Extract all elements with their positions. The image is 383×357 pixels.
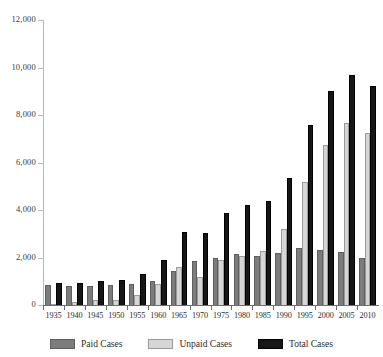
total-cases-bar [245,205,251,305]
y-axis-tick-label: 2,000 [0,252,36,262]
x-axis-tick-label: 1955 [126,311,148,320]
legend-item[interactable]: Unpaid Cases [148,339,232,349]
bar-group [87,20,104,305]
x-axis-tick-label: 1975 [210,311,232,320]
x-axis-tick [252,306,253,310]
x-axis-tick [106,306,107,310]
x-axis-tick [315,306,316,310]
x-axis-tick [294,306,295,310]
total-cases-bar [287,178,293,305]
plot-area [43,20,378,305]
bar-group [45,20,62,305]
bar-group [192,20,209,305]
legend-label: Total Cases [289,339,333,349]
x-axis-tick-label: 1985 [252,311,274,320]
x-axis-tick [336,306,337,310]
bar-group [234,20,251,305]
x-axis-tick [231,306,232,310]
y-axis-tick-label: 8,000 [0,109,36,119]
x-axis-tick-label: 1965 [168,311,190,320]
x-axis-tick-label: 1970 [189,311,211,320]
total-cases-bar [119,280,125,305]
x-axis-tick [64,306,65,310]
bar-group [150,20,167,305]
unpaid-cases-swatch [148,339,173,349]
x-axis-tick [127,306,128,310]
total-cases-bar [56,283,62,305]
total-cases-bar [349,75,355,305]
bar-group [129,20,146,305]
x-axis-tick [211,306,212,310]
total-cases-bar [182,232,188,305]
chart-legend: Paid CasesUnpaid CasesTotal Cases [0,333,383,355]
paid-cases-bar [45,285,51,305]
x-axis-tick-label: 1945 [84,311,106,320]
total-cases-bar [140,274,146,305]
bar-group [108,20,125,305]
total-cases-swatch [258,339,283,349]
bar-group [338,20,355,305]
legend-label: Paid Cases [81,339,122,349]
bar-group [171,20,188,305]
bar-group [317,20,334,305]
x-axis-tick [357,306,358,310]
y-axis-tick-label: 12,000 [0,14,36,24]
x-axis-tick-label: 1960 [147,311,169,320]
bar-group [213,20,230,305]
x-axis-tick-label: 1990 [273,311,295,320]
bar-group [359,20,376,305]
y-axis-tick-label: 4,000 [0,204,36,214]
bar-group [275,20,292,305]
x-axis-tick [169,306,170,310]
bar-group [254,20,271,305]
x-axis-tick-label: 2005 [336,311,358,320]
x-axis-tick-label: 1935 [42,311,64,320]
bar-group [296,20,313,305]
total-cases-bar [370,86,376,305]
x-axis-tick-label: 1950 [105,311,127,320]
x-axis-tick-label: 1940 [63,311,85,320]
paid-cases-swatch [50,339,75,349]
total-cases-bar [98,281,104,305]
total-cases-bar [77,283,83,305]
x-axis-tick [148,306,149,310]
x-axis-tick [43,306,44,310]
total-cases-bar [161,260,167,305]
total-cases-bar [328,91,334,305]
y-axis-tick-label: 10,000 [0,62,36,72]
bar-chart: 02,0004,0006,0008,00010,00012,000 193519… [0,0,383,357]
total-cases-bar [308,125,314,305]
x-axis-tick [190,306,191,310]
legend-item[interactable]: Paid Cases [50,339,122,349]
x-axis-tick-label: 1995 [294,311,316,320]
total-cases-bar [224,213,230,305]
total-cases-bar [266,201,272,305]
x-axis-tick [273,306,274,310]
x-axis-tick-label: 2000 [315,311,337,320]
legend-item[interactable]: Total Cases [258,339,333,349]
total-cases-bar [203,233,209,305]
x-axis-tick-label: 2010 [357,311,379,320]
bar-group [66,20,83,305]
y-axis-tick-label: 0 [0,299,36,309]
x-axis-tick-label: 1980 [231,311,253,320]
x-axis-tick [85,306,86,310]
legend-label: Unpaid Cases [179,339,232,349]
y-axis-tick-label: 6,000 [0,157,36,167]
